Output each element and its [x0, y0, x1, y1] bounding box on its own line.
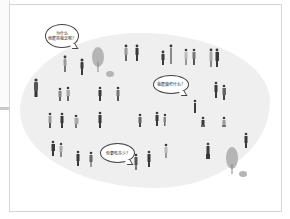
tree-icon	[92, 47, 247, 177]
crowd-figures	[0, 0, 290, 219]
person-figures	[34, 45, 248, 170]
